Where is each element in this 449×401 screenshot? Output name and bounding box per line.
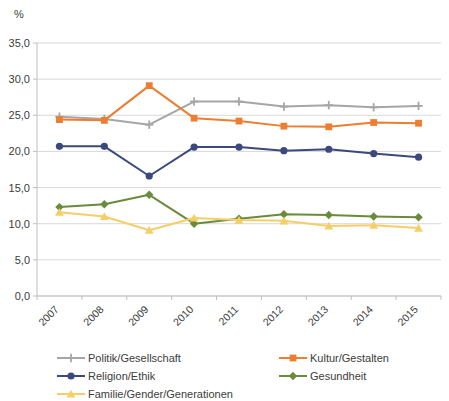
data-point-marker bbox=[325, 101, 333, 109]
data-point-marker bbox=[370, 150, 377, 157]
data-point-marker bbox=[325, 211, 333, 219]
y-tick-label: 20,0 bbox=[9, 145, 30, 157]
y-tick-label: 30,0 bbox=[9, 73, 30, 85]
y-tick-label: 25,0 bbox=[9, 109, 30, 121]
legend-marker-plus-icon bbox=[56, 351, 86, 365]
legend-marker-circle-icon bbox=[56, 369, 86, 383]
series-familie-gender-generationen bbox=[55, 208, 423, 234]
data-point-marker bbox=[190, 97, 198, 105]
legend-marker-diamond-icon bbox=[278, 369, 308, 383]
x-tick-label: 2009 bbox=[126, 303, 151, 328]
data-point-marker bbox=[56, 116, 63, 123]
series-religion-ethik bbox=[56, 143, 422, 180]
legend-item-gesundheit[interactable]: Gesundheit bbox=[278, 367, 449, 384]
data-point-marker bbox=[415, 154, 422, 161]
legend-label: Politik/Gesellschaft bbox=[86, 352, 181, 364]
legend-item-politik-gesellschaft[interactable]: Politik/Gesellschaft bbox=[56, 349, 286, 366]
data-point-marker bbox=[56, 143, 63, 150]
data-point-marker bbox=[325, 146, 332, 153]
legend-item-familie-gender-generationen[interactable]: Familie/Gender/Generationen bbox=[56, 385, 286, 401]
data-point-marker bbox=[325, 123, 332, 130]
legend-item-religion-ethik[interactable]: Religion/Ethik bbox=[56, 367, 286, 384]
data-point-marker bbox=[369, 212, 377, 220]
data-point-marker bbox=[414, 213, 422, 221]
data-point-marker bbox=[369, 103, 377, 111]
data-point-marker bbox=[370, 119, 377, 126]
data-point-marker bbox=[101, 143, 108, 150]
data-point-marker bbox=[101, 117, 108, 124]
x-tick-label: 2010 bbox=[171, 303, 196, 328]
axis-lines bbox=[37, 43, 441, 296]
legend-item-kultur-gestalten[interactable]: Kultur/Gestalten bbox=[278, 349, 449, 366]
data-point-marker bbox=[146, 82, 153, 89]
x-tick-label: 2014 bbox=[350, 303, 375, 328]
y-axis-ticks: 0,05,010,015,020,025,030,035,0 bbox=[9, 37, 37, 302]
data-point-marker bbox=[280, 123, 287, 130]
data-point-marker bbox=[100, 200, 108, 208]
data-point-marker bbox=[415, 120, 422, 127]
series-line bbox=[59, 146, 418, 176]
data-point-marker bbox=[236, 118, 243, 125]
y-tick-label: 15,0 bbox=[9, 182, 30, 194]
x-tick-label: 2011 bbox=[216, 303, 241, 328]
legend-column-right: Kultur/Gestalten Gesundheit bbox=[278, 349, 449, 385]
data-point-marker bbox=[235, 97, 243, 105]
x-tick-label: 2008 bbox=[81, 303, 106, 328]
data-series bbox=[55, 82, 423, 234]
y-tick-label: 10,0 bbox=[9, 218, 30, 230]
data-point-marker bbox=[146, 172, 153, 179]
data-point-marker bbox=[67, 353, 75, 361]
chart-legend: Politik/Gesellschaft Religion/Ethik Fami… bbox=[56, 349, 449, 401]
data-point-marker bbox=[191, 143, 198, 150]
x-tick-label: 2015 bbox=[395, 303, 420, 328]
legend-marker-square-icon bbox=[278, 351, 308, 365]
y-tick-label: 5,0 bbox=[15, 254, 30, 266]
data-point-marker bbox=[145, 120, 153, 128]
data-point-marker bbox=[191, 115, 198, 122]
legend-label: Gesundheit bbox=[308, 370, 366, 382]
legend-column-left: Politik/Gesellschaft Religion/Ethik Fami… bbox=[56, 349, 286, 401]
legend-marker-triangle-icon bbox=[56, 387, 86, 401]
gridlines bbox=[37, 43, 441, 296]
x-tick-label: 2012 bbox=[260, 303, 285, 328]
data-point-marker bbox=[280, 102, 288, 110]
legend-label: Religion/Ethik bbox=[86, 370, 155, 382]
line-chart-svg: 0,05,010,015,020,025,030,035,0 200720082… bbox=[0, 0, 449, 401]
x-tick-label: 2007 bbox=[36, 303, 61, 328]
x-axis-ticks: 200720082009201020112012201320142015 bbox=[36, 296, 441, 328]
legend-label: Kultur/Gestalten bbox=[308, 352, 389, 364]
data-point-marker bbox=[67, 372, 74, 379]
x-tick-label: 2013 bbox=[305, 303, 330, 328]
data-point-marker bbox=[289, 371, 297, 379]
data-point-marker bbox=[414, 102, 422, 110]
data-point-marker bbox=[280, 147, 287, 154]
y-tick-label: 0,0 bbox=[15, 290, 30, 302]
y-tick-label: 35,0 bbox=[9, 37, 30, 49]
plot-area: 0,05,010,015,020,025,030,035,0 200720082… bbox=[0, 0, 449, 401]
data-point-marker bbox=[235, 143, 242, 150]
legend-label: Familie/Gender/Generationen bbox=[86, 388, 233, 400]
data-point-marker bbox=[290, 354, 297, 361]
chart-container: % 0,05,010,015,020,025,030,035,0 2007200… bbox=[0, 0, 449, 401]
